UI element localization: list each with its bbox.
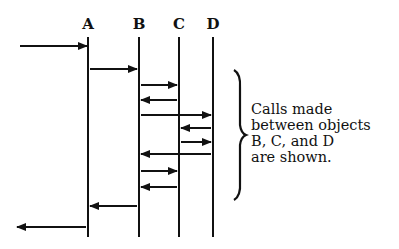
object-label-a: A	[82, 15, 94, 33]
annotation-note: Calls made between objects B, C, and D a…	[251, 101, 371, 165]
annotation-line-2: between objects	[251, 117, 371, 133]
annotation-line-3: B, C, and D	[251, 133, 371, 149]
messages	[17, 46, 211, 227]
annotation-line-4: are shown.	[251, 149, 371, 165]
annotation-line-1: Calls made	[251, 101, 371, 117]
curly-brace-icon	[234, 70, 246, 200]
object-label-b: B	[133, 15, 146, 33]
object-label-d: D	[206, 15, 219, 33]
object-label-c: C	[173, 15, 185, 33]
